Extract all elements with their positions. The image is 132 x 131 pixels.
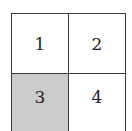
cell-label: 3: [35, 87, 46, 107]
cell-label: 1: [35, 34, 46, 54]
grid-cell-4: 4: [69, 74, 125, 131]
cell-label: 2: [92, 34, 103, 54]
cell-label: 4: [92, 87, 103, 107]
grid-cell-2: 2: [69, 14, 125, 74]
grid-cell-3-shaded: 3: [12, 74, 69, 131]
grid-cell-1: 1: [12, 14, 69, 74]
grid-diagram: 1 2 3 4: [11, 13, 126, 131]
